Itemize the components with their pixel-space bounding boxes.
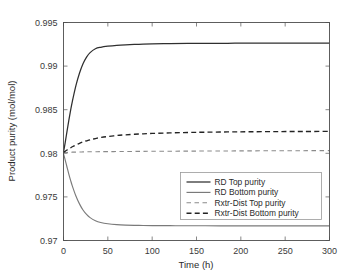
figure-canvas: 050100150200250300 0.970.9750.980.9850.9… bbox=[0, 0, 352, 280]
legend-label-0: RD Top purity bbox=[215, 177, 266, 187]
y-tick-labels: 0.970.9750.980.9850.990.995 bbox=[35, 18, 58, 246]
x-tick-label: 100 bbox=[145, 246, 160, 256]
x-axis-title: Time (h) bbox=[178, 259, 213, 270]
y-axis-title: Product purity (mol/mol) bbox=[6, 81, 17, 182]
y-tick-label: 0.995 bbox=[35, 18, 58, 28]
y-tick-label: 0.98 bbox=[40, 149, 58, 159]
chart-legend: RD Top purityRD Bottom purityRxtr-Dist T… bbox=[181, 173, 322, 220]
legend-label-3: Rxtr-Dist Bottom purity bbox=[215, 208, 300, 218]
y-tick-label: 0.975 bbox=[35, 192, 58, 202]
x-tick-label: 0 bbox=[61, 246, 66, 256]
y-tick-label: 0.99 bbox=[40, 61, 58, 71]
series-line-3 bbox=[64, 131, 330, 152]
y-tick-label: 0.985 bbox=[35, 105, 58, 115]
legend-label-2: Rxtr-Dist Top purity bbox=[215, 198, 287, 208]
legend-label-1: RD Bottom purity bbox=[215, 187, 280, 197]
x-tick-label: 250 bbox=[278, 246, 293, 256]
purity-line-chart: 050100150200250300 0.970.9750.980.9850.9… bbox=[0, 0, 352, 280]
x-tick-label: 300 bbox=[322, 246, 337, 256]
x-tick-labels: 050100150200250300 bbox=[61, 246, 337, 256]
x-tick-label: 50 bbox=[103, 246, 113, 256]
x-tick-label: 150 bbox=[189, 246, 204, 256]
x-tick-label: 200 bbox=[233, 246, 248, 256]
series-line-0 bbox=[64, 43, 330, 152]
y-tick-label: 0.97 bbox=[40, 236, 58, 246]
series-line-2 bbox=[64, 151, 330, 153]
